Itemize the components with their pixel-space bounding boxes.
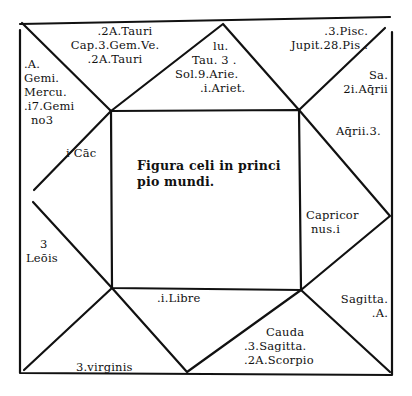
house-text: i Cāc — [66, 146, 96, 160]
house-text: .i.Libre — [157, 291, 201, 305]
house-left-upper: .A. Gemi. Mercu. .i7.Gemi no3 — [24, 57, 74, 127]
house-text: .i7.Gemi — [24, 99, 74, 113]
house-text: 2i.Aq̄rii — [320, 82, 388, 96]
house-top-right: .3.Pisc. Jupit.28.Pis . — [250, 24, 368, 52]
house-top-left: .2A.Tauri Cap.3.Gem.Ve. .2A.Tauri — [60, 24, 170, 66]
house-text: .2A.Tauri — [60, 24, 170, 38]
house-text: .3.Pisc. — [250, 24, 368, 38]
house-text: Sol.9.Arie. — [175, 67, 245, 81]
title-line: Figura celi in princi — [137, 158, 281, 174]
bottom-left-diagonal — [24, 288, 112, 370]
house-text: Cap.3.Gem.Ve. — [60, 38, 170, 52]
title-line: pio mundi. — [137, 174, 281, 190]
house-top-center: lu. Tau. 3 . Sol.9.Arie. .i.Ariet. — [180, 39, 245, 95]
house-right-upper-inner: Aq̄rii.3. — [336, 124, 381, 138]
house-left-center: 3 Leōis — [26, 237, 58, 265]
house-text: .2A.Scorpio — [244, 353, 314, 367]
house-text: Capricor — [306, 208, 359, 222]
house-text: Cauda — [244, 325, 314, 339]
house-text: .3.Sagitta. — [244, 339, 314, 353]
house-text: .i.Ariet. — [180, 81, 245, 95]
house-text: Sa. — [320, 68, 388, 82]
house-text: 3 — [26, 237, 58, 251]
house-right-center: Capricor nus.i — [306, 208, 359, 236]
house-text: 3.virginis — [76, 360, 133, 374]
chart-title: Figura celi in princi pio mundi. — [137, 158, 281, 190]
house-text: Aq̄rii.3. — [336, 124, 381, 138]
house-text: .A. — [24, 57, 74, 71]
house-left-upper-inner: i Cāc — [66, 146, 96, 160]
house-text: Leōis — [26, 251, 58, 265]
house-text: Mercu. — [24, 85, 74, 99]
house-text: Gemi. — [24, 71, 74, 85]
house-bottom-center: .i.Libre — [157, 291, 201, 305]
house-bottom-right: Cauda .3.Sagitta. .2A.Scorpio — [244, 325, 314, 367]
inner-square — [111, 110, 301, 290]
house-right-upper: Sa. 2i.Aq̄rii — [320, 68, 388, 96]
house-text: .A. — [310, 306, 388, 320]
house-right-lower: Sagitta. .A. — [310, 292, 388, 320]
house-text: Jupit.28.Pis . — [250, 38, 368, 52]
house-text: Tau. 3 . — [180, 53, 245, 67]
house-text: nus.i — [306, 222, 359, 236]
house-text: .2A.Tauri — [60, 52, 170, 66]
house-text: no3 — [24, 113, 74, 127]
house-bottom-left: 3.virginis — [76, 360, 133, 374]
house-text: Sagitta. — [310, 292, 388, 306]
house-text: lu. — [180, 39, 245, 53]
